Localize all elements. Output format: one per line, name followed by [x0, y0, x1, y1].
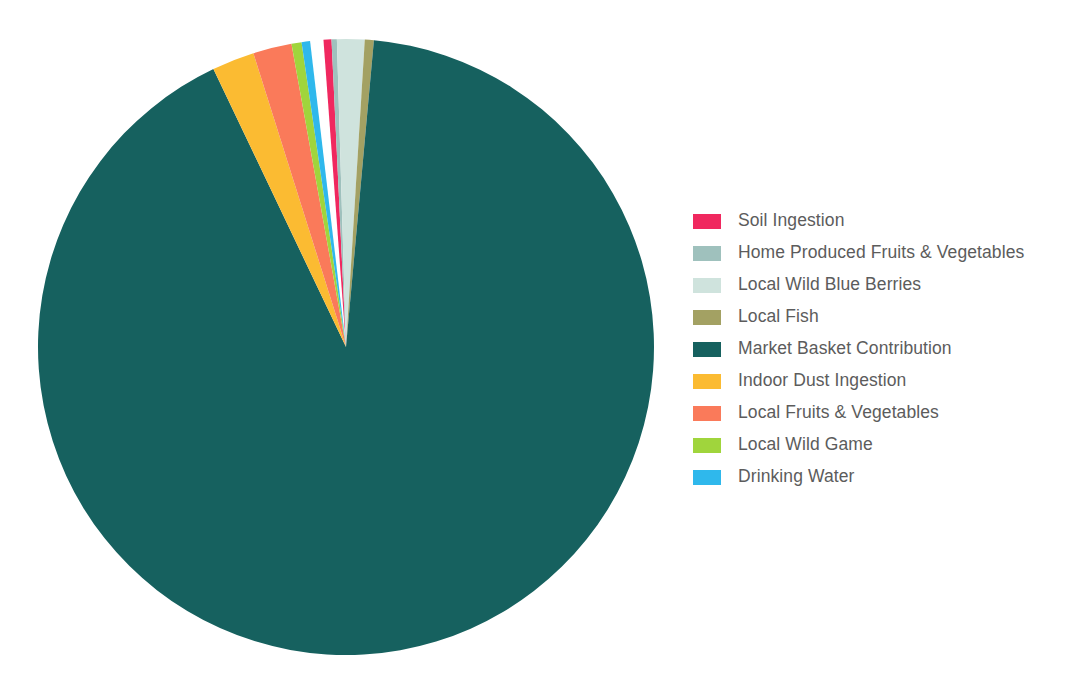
legend-item[interactable]: Drinking Water — [693, 461, 1083, 493]
legend-color-swatch — [693, 342, 721, 357]
legend-item[interactable]: Market Basket Contribution — [693, 333, 1083, 365]
legend-item[interactable]: Local Fish — [693, 301, 1083, 333]
legend-item[interactable]: Local Fruits & Vegetables — [693, 397, 1083, 429]
legend-item-label: Local Wild Game — [738, 436, 873, 454]
pie-plot-area — [0, 0, 700, 697]
legend-color-swatch — [693, 470, 721, 485]
legend-item-label: Soil Ingestion — [738, 212, 844, 230]
legend-item-label: Local Fruits & Vegetables — [738, 404, 939, 422]
legend-color-swatch — [693, 246, 721, 261]
legend-item-label: Local Wild Blue Berries — [738, 276, 921, 294]
pie-chart-figure: Soil IngestionHome Produced Fruits & Veg… — [0, 0, 1087, 697]
legend-item-label: Drinking Water — [738, 468, 854, 486]
legend-item[interactable]: Home Produced Fruits & Vegetables — [693, 237, 1083, 269]
legend-color-swatch — [693, 374, 721, 389]
legend-color-swatch — [693, 438, 721, 453]
legend-item-label: Home Produced Fruits & Vegetables — [738, 244, 1024, 262]
legend-item-label: Local Fish — [738, 308, 819, 326]
pie-svg — [0, 0, 700, 697]
legend-color-swatch — [693, 406, 721, 421]
legend-item[interactable]: Local Wild Blue Berries — [693, 269, 1083, 301]
legend-color-swatch — [693, 310, 721, 325]
legend-item[interactable]: Indoor Dust Ingestion — [693, 365, 1083, 397]
legend-color-swatch — [693, 278, 721, 293]
chart-legend: Soil IngestionHome Produced Fruits & Veg… — [693, 205, 1083, 493]
legend-item[interactable]: Soil Ingestion — [693, 205, 1083, 237]
legend-item-label: Indoor Dust Ingestion — [738, 372, 906, 390]
legend-item[interactable]: Local Wild Game — [693, 429, 1083, 461]
legend-color-swatch — [693, 214, 721, 229]
pie-slice-group — [38, 39, 654, 655]
legend-item-label: Market Basket Contribution — [738, 340, 952, 358]
